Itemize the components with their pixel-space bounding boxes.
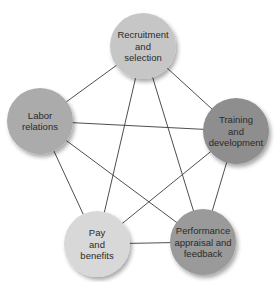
node-label-line: Performance (176, 225, 230, 236)
node-label-line: Labor (28, 110, 52, 121)
node-labor: Laborrelations (7, 88, 73, 154)
node-label-line: development (209, 137, 264, 148)
node-performance: Performanceappraisal andfeedback (170, 209, 236, 275)
hr-functions-diagram: RecruitmentandselectionTraininganddevelo… (0, 0, 275, 282)
node-recruitment: Recruitmentandselection (110, 13, 176, 79)
node-label-line: and (135, 41, 151, 52)
function-nodes: RecruitmentandselectionTraininganddevelo… (7, 13, 269, 277)
node-label-line: Training (219, 114, 253, 125)
node-label-line: relations (22, 121, 58, 132)
node-label-line: benefits (80, 250, 114, 261)
node-label-line: Recruitment (117, 29, 169, 40)
node-pay: Payandbenefits (64, 211, 130, 277)
node-label-line: Pay (89, 227, 106, 238)
node-label-line: and (228, 126, 244, 137)
node-training: Traininganddevelopment (203, 98, 269, 164)
node-label-line: selection (124, 52, 162, 63)
node-label-line: feedback (184, 248, 223, 259)
node-label-line: and (89, 239, 105, 250)
node-label-line: appraisal and (174, 237, 231, 248)
